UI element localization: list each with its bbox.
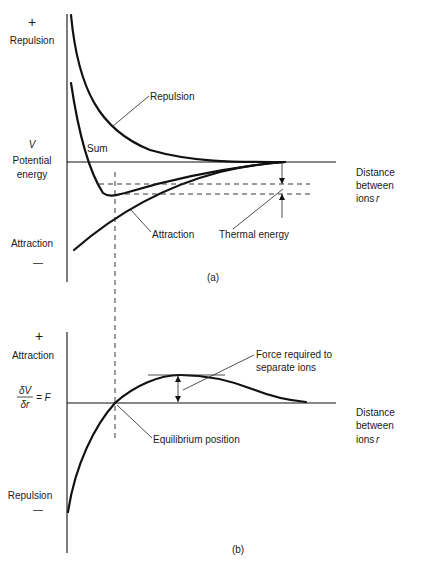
attraction-leader [130, 209, 151, 232]
b-plus-sign: + [35, 328, 43, 344]
caption-b: (b) [232, 544, 244, 555]
repulsion-curve [71, 15, 285, 162]
a-repulsion-axis-label: Repulsion [10, 35, 54, 46]
repulsion-curve-label: Repulsion [150, 91, 194, 102]
a-plus-sign: + [28, 14, 36, 30]
repulsion-leader [113, 96, 149, 126]
sum-curve-label: Sum [87, 143, 108, 154]
force-symbol: = F [36, 392, 52, 403]
force-required-label-line2: separate ions [256, 362, 316, 373]
equilibrium-leader [117, 405, 152, 438]
b-minus-sign: — [33, 504, 43, 515]
thermal-energy-label: Thermal energy [219, 229, 289, 240]
a-distance-label: Distance [356, 167, 395, 178]
fraction-denominator: δr [21, 399, 31, 410]
thermal-leader [233, 189, 283, 229]
arrow-down-icon [175, 396, 181, 402]
b-distance-label: Distance [356, 407, 395, 418]
b-attraction-axis-label: Attraction [12, 350, 54, 361]
a-r-symbol: r [376, 193, 380, 204]
arrow-up-icon [279, 194, 285, 200]
a-energy-label: energy [17, 169, 48, 180]
a-potential-label: Potential [13, 155, 52, 166]
caption-a: (a) [207, 272, 219, 283]
arrow-up-icon [175, 376, 181, 382]
a-ions-label: ions [356, 193, 374, 204]
dv-dr-fraction: δV δr = F [17, 385, 52, 410]
equilibrium-position-label: Equilibrium position [153, 434, 240, 445]
a-between-label: between [356, 180, 394, 191]
arrow-down-icon [279, 178, 285, 184]
b-ions-label: ions [356, 434, 374, 445]
fraction-numerator: δV [19, 385, 33, 396]
attraction-curve-label: Attraction [152, 229, 194, 240]
a-attraction-axis-label: Attraction [11, 238, 53, 249]
b-r-symbol: r [376, 434, 380, 445]
ionic-bonding-diagram: + Repulsion V Potential energy Attractio… [0, 0, 426, 565]
b-between-label: between [356, 420, 394, 431]
b-repulsion-axis-label: Repulsion [8, 490, 52, 501]
figure-b: + Attraction δV δr = F Repulsion — Dista… [8, 328, 396, 555]
a-v-symbol: V [29, 139, 37, 150]
force-required-label-line1: Force required to [256, 349, 333, 360]
a-minus-sign: — [33, 257, 43, 268]
